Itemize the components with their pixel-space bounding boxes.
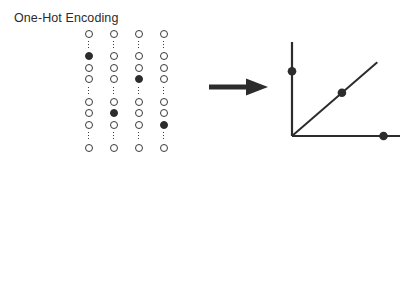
inactive-cell xyxy=(85,28,93,39)
inactive-cell xyxy=(110,62,118,73)
dotted-separator xyxy=(113,131,115,142)
inactive-cell xyxy=(160,142,168,153)
one-hot-plot xyxy=(278,36,404,148)
inactive-cell xyxy=(160,62,168,73)
dotted-separator-icon xyxy=(163,87,165,95)
inactive-cell xyxy=(160,74,168,85)
inactive-cell xyxy=(110,51,118,62)
one-hot-column-2 xyxy=(101,28,126,153)
dotted-separator xyxy=(88,39,90,50)
filled-circle-icon xyxy=(160,121,168,129)
filled-circle-icon xyxy=(110,109,118,117)
one-hot-column-1 xyxy=(76,28,101,153)
active-cell xyxy=(85,51,93,62)
empty-circle-icon xyxy=(85,98,93,106)
empty-circle-icon xyxy=(85,144,93,152)
empty-circle-icon xyxy=(160,75,168,83)
inactive-cell xyxy=(110,74,118,85)
dotted-separator xyxy=(138,39,140,50)
inactive-cell xyxy=(85,142,93,153)
dotted-separator xyxy=(163,131,165,142)
empty-circle-icon xyxy=(135,121,143,129)
empty-circle-icon xyxy=(110,52,118,60)
empty-circle-icon xyxy=(135,98,143,106)
dotted-separator xyxy=(88,85,90,96)
empty-circle-icon xyxy=(110,75,118,83)
inactive-cell xyxy=(85,119,93,130)
empty-circle-icon xyxy=(135,52,143,60)
dotted-separator xyxy=(163,85,165,96)
dense-section: Dense Encoding xyxy=(0,160,413,284)
empty-circle-icon xyxy=(85,75,93,83)
inactive-cell xyxy=(85,96,93,107)
dotted-separator-icon xyxy=(113,87,115,95)
diagonal-line xyxy=(292,62,377,136)
inactive-cell xyxy=(85,108,93,119)
active-cell xyxy=(160,119,168,130)
empty-circle-icon xyxy=(160,109,168,117)
inactive-cell xyxy=(110,142,118,153)
filled-circle-icon xyxy=(135,75,143,83)
data-point xyxy=(288,67,297,76)
empty-circle-icon xyxy=(160,30,168,38)
inactive-cell xyxy=(135,28,143,39)
one-hot-section-title: One-Hot Encoding xyxy=(14,11,118,25)
dotted-separator xyxy=(163,39,165,50)
empty-circle-icon xyxy=(85,121,93,129)
one-hot-vector-columns xyxy=(76,28,176,153)
dotted-separator xyxy=(138,85,140,96)
inactive-cell xyxy=(160,51,168,62)
empty-circle-icon xyxy=(160,64,168,72)
empty-circle-icon xyxy=(110,121,118,129)
dotted-separator-icon xyxy=(138,87,140,95)
dotted-separator-icon xyxy=(138,132,140,140)
empty-circle-icon xyxy=(110,144,118,152)
dotted-separator-icon xyxy=(88,132,90,140)
inactive-cell xyxy=(85,74,93,85)
one-hot-column-4 xyxy=(151,28,176,153)
inactive-cell xyxy=(110,28,118,39)
empty-circle-icon xyxy=(160,52,168,60)
inactive-cell xyxy=(110,96,118,107)
dotted-separator-icon xyxy=(88,87,90,95)
dotted-separator xyxy=(88,131,90,142)
dotted-separator xyxy=(138,131,140,142)
dotted-separator xyxy=(113,39,115,50)
data-point xyxy=(338,89,347,98)
dotted-separator-icon xyxy=(163,132,165,140)
inactive-cell xyxy=(85,62,93,73)
empty-circle-icon xyxy=(85,30,93,38)
empty-circle-icon xyxy=(85,64,93,72)
inactive-cell xyxy=(135,108,143,119)
empty-circle-icon xyxy=(160,98,168,106)
active-cell xyxy=(135,74,143,85)
empty-circle-icon xyxy=(135,64,143,72)
empty-circle-icon xyxy=(135,30,143,38)
inactive-cell xyxy=(160,108,168,119)
inactive-cell xyxy=(160,96,168,107)
empty-circle-icon xyxy=(110,98,118,106)
empty-circle-icon xyxy=(85,109,93,117)
dotted-separator xyxy=(113,85,115,96)
one-hot-section: One-Hot Encoding xyxy=(0,0,413,160)
empty-circle-icon xyxy=(160,144,168,152)
data-point xyxy=(379,132,388,141)
dotted-separator-icon xyxy=(113,132,115,140)
inactive-cell xyxy=(135,62,143,73)
active-cell xyxy=(110,108,118,119)
inactive-cell xyxy=(110,119,118,130)
empty-circle-icon xyxy=(135,109,143,117)
empty-circle-icon xyxy=(110,30,118,38)
inactive-cell xyxy=(160,28,168,39)
one-hot-column-3 xyxy=(126,28,151,153)
inactive-cell xyxy=(135,142,143,153)
empty-circle-icon xyxy=(110,64,118,72)
filled-circle-icon xyxy=(85,52,93,60)
empty-circle-icon xyxy=(135,144,143,152)
arrow-right-icon xyxy=(208,76,270,98)
inactive-cell xyxy=(135,51,143,62)
dotted-separator-icon xyxy=(163,41,165,49)
inactive-cell xyxy=(135,96,143,107)
dotted-separator-icon xyxy=(88,41,90,49)
dotted-separator-icon xyxy=(113,41,115,49)
